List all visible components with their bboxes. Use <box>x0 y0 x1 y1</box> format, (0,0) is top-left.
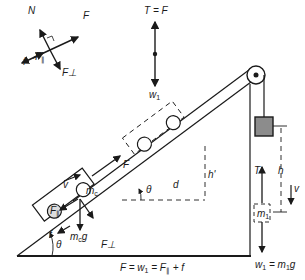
label-pull-force: F <box>123 160 129 170</box>
diagram-canvas <box>0 0 305 280</box>
label-friction: f <box>23 57 26 67</box>
label-weight: w1 <box>149 90 160 101</box>
label-car-mass: mc <box>86 186 98 197</box>
label-mass-one: m1 <box>257 209 269 220</box>
label-theta-lower: θ <box>56 240 61 250</box>
hanging-mass-block <box>255 117 273 136</box>
car-displaced <box>122 101 187 158</box>
label-f-perpendicular: F⊥ <box>62 68 77 78</box>
label-height: h <box>278 166 284 176</box>
label-velocity-car: v <box>63 180 68 190</box>
label-friction-car: f <box>49 230 52 240</box>
label-f-parallel: F∥ <box>35 52 45 63</box>
label-f-parallel-car: F∥ <box>50 206 60 217</box>
label-tension: T = F <box>144 6 168 16</box>
label-height-prime: h' <box>208 170 215 180</box>
label-velocity-mass: v <box>294 184 299 194</box>
pulley <box>247 66 265 84</box>
label-normal-force: N <box>28 6 35 16</box>
car-free-body-diagram <box>22 30 78 69</box>
incline-lower <box>17 82 251 256</box>
label-weight-equation: w1 = m1g <box>255 260 295 271</box>
label-car-weight: mcg <box>70 232 87 243</box>
label-tension-hanging: T <box>254 166 260 176</box>
label-force-equation: F = w1 = F∥ + f <box>120 263 184 274</box>
label-applied-force: F <box>83 11 89 21</box>
mass-free-body-diagram <box>153 22 157 86</box>
label-f-perp-incline: F⊥ <box>101 240 116 250</box>
incline-upper <box>73 67 253 201</box>
label-distance: d <box>173 180 179 190</box>
label-theta-upper: θ <box>146 185 151 195</box>
